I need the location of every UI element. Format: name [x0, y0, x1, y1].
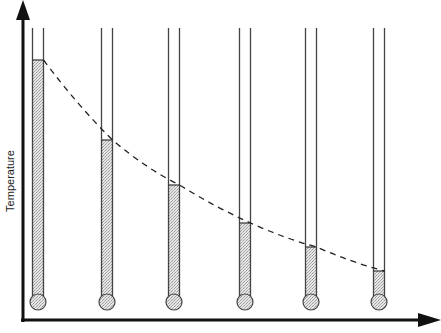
thermometer-1 — [30, 28, 46, 310]
cooling-curve — [44, 60, 385, 271]
thermometer-3 — [166, 28, 182, 310]
y-axis — [16, 0, 30, 322]
cooling-diagram — [0, 0, 441, 333]
thermometers — [30, 28, 387, 310]
y-axis-label: Temperature — [4, 141, 16, 221]
x-axis-arrow-icon — [418, 313, 441, 327]
y-axis-arrow-icon — [16, 0, 30, 20]
thermometer-2 — [99, 28, 115, 310]
thermometer-4 — [237, 28, 253, 310]
x-axis — [21, 313, 441, 327]
thermometer-5 — [303, 28, 319, 310]
